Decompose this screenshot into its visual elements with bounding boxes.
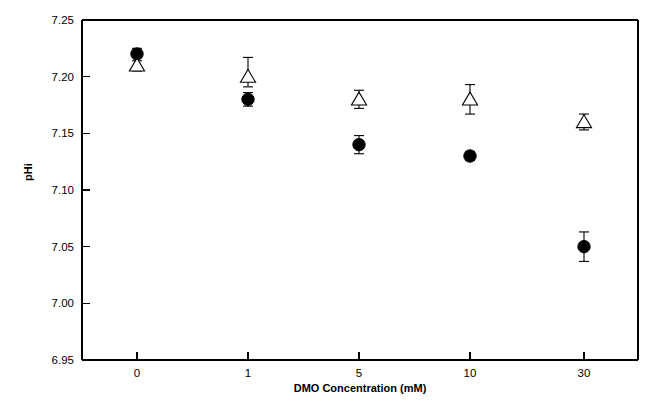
y-tick-label: 7.10 — [52, 184, 74, 196]
scatter-plot-svg: 7.25 7.20 7.15 7.10 7.05 7.00 — [0, 0, 665, 405]
chart-figure: 7.25 7.20 7.15 7.10 7.05 7.00 — [0, 0, 665, 405]
x-tick-label: 30 — [578, 367, 591, 379]
marker-filled-circle — [578, 240, 590, 252]
x-tick-label: 1 — [245, 367, 251, 379]
y-tick-label: 7.15 — [52, 127, 74, 139]
x-tick-label: 5 — [356, 367, 362, 379]
y-axis-title: pHi — [22, 163, 34, 181]
chart-background — [0, 0, 665, 405]
marker-filled-circle — [464, 150, 476, 162]
marker-filled-circle — [242, 93, 254, 105]
y-tick-label: 7.20 — [52, 71, 74, 83]
marker-filled-circle — [353, 138, 365, 150]
y-tick-label: 6.95 — [52, 354, 74, 366]
x-tick-label: 0 — [134, 367, 140, 379]
y-tick-label: 7.05 — [52, 241, 74, 253]
data-point-group — [242, 93, 254, 107]
y-tick-label: 7.00 — [52, 297, 74, 309]
y-tick-label: 7.25 — [52, 14, 74, 26]
x-axis-title: DMO Concentration (mM) — [294, 382, 427, 394]
data-point-group — [464, 150, 476, 162]
x-tick-label: 10 — [464, 367, 477, 379]
